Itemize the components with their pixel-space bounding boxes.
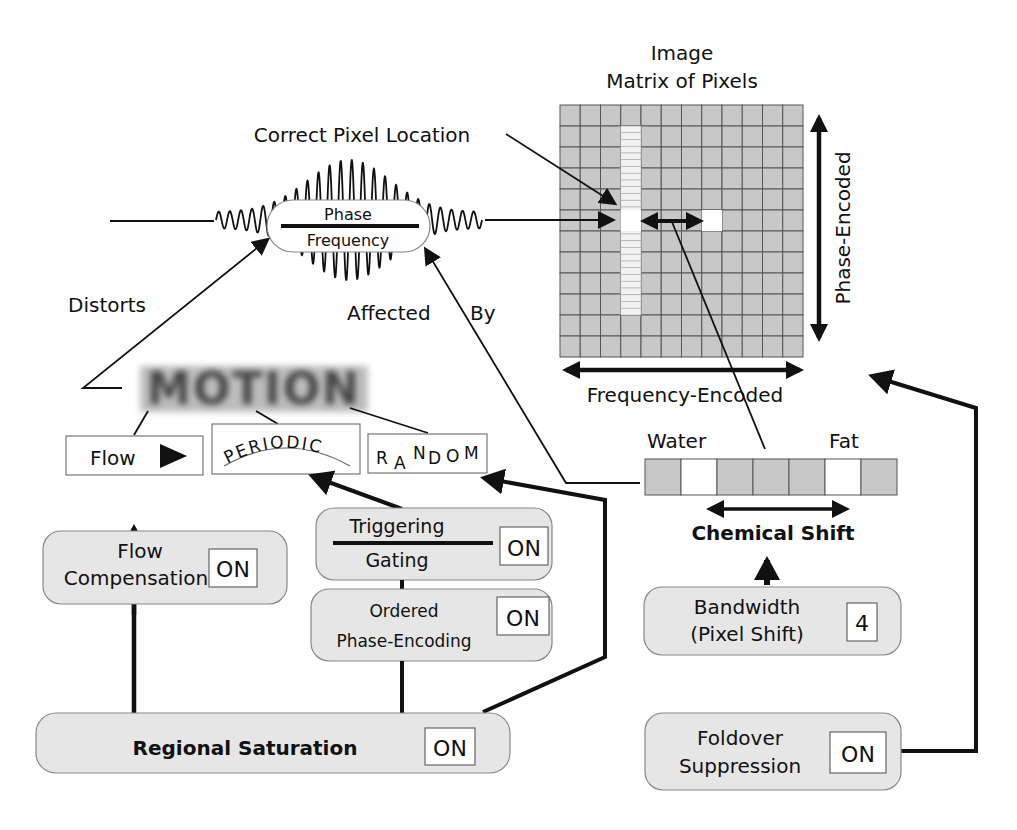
by-label: By (470, 301, 496, 325)
foldover-suppression-control[interactable]: Foldover Suppression ON (645, 713, 901, 790)
triggering-label: Triggering (349, 515, 445, 537)
matrix-title-line2: Matrix of Pixels (606, 69, 758, 93)
fat-label: Fat (829, 429, 859, 453)
motion-type-periodic: PERIODIC (212, 424, 360, 474)
regional-saturation-control[interactable]: Regional Saturation ON (36, 713, 510, 773)
ordered-toggle[interactable]: ON (506, 606, 540, 631)
phase-encoded-label: Phase-Encoded (831, 151, 855, 304)
frequency-label: Frequency (307, 231, 390, 250)
flow-compensation-control[interactable]: Flow Compensation ON (43, 531, 287, 604)
correct-pixel-location-label: Correct Pixel Location (254, 123, 471, 147)
motion-type-flow: Flow (66, 436, 203, 475)
gating-label: Gating (365, 549, 428, 571)
frequency-encoded-label: Frequency-Encoded (587, 383, 783, 407)
ordered-line1: Ordered (369, 601, 438, 621)
bandwidth-control[interactable]: Bandwidth (Pixel Shift) 4 (644, 587, 901, 655)
motion-type-random: RANDOM (368, 434, 487, 473)
matrix-title-line1: Image (651, 41, 714, 65)
triggering-gating-control[interactable]: Triggering Gating ON (316, 508, 552, 580)
pixel-grid (560, 105, 803, 357)
bandwidth-line2: (Pixel Shift) (690, 622, 804, 646)
mri-artifact-diagram: Image Matrix of Pixels Phase-Encoded Fre… (0, 0, 1017, 830)
motion-title: MOTION (140, 363, 368, 414)
flow-comp-line2: Compensation (64, 566, 208, 590)
flow-comp-toggle[interactable]: ON (216, 557, 250, 582)
image-matrix: Image Matrix of Pixels Phase-Encoded Fre… (560, 41, 855, 407)
signal-waveform: Phase Frequency (110, 160, 612, 280)
foldover-line2: Suppression (679, 754, 801, 778)
ordered-line2: Phase-Encoding (336, 631, 471, 651)
phase-label: Phase (324, 205, 372, 224)
distorts-label: Distorts (68, 293, 146, 317)
triggering-to-periodic-arrow (312, 476, 402, 509)
triggering-toggle[interactable]: ON (507, 536, 541, 561)
chemical-shift-label: Chemical Shift (691, 521, 855, 545)
water-label: Water (647, 429, 707, 453)
bandwidth-line1: Bandwidth (694, 595, 800, 619)
flow-label: Flow (90, 446, 136, 470)
chemical-shift-strip: Water Fat Chemical Shift (645, 429, 897, 545)
foldover-to-matrix-arrow (872, 376, 976, 751)
foldover-toggle[interactable]: ON (841, 742, 875, 767)
motion-word: MOTION (147, 363, 361, 414)
foldover-line1: Foldover (697, 726, 784, 750)
regional-saturation-label: Regional Saturation (133, 736, 358, 760)
flow-comp-line1: Flow (117, 539, 163, 563)
regional-saturation-toggle[interactable]: ON (433, 736, 467, 761)
affected-label: Affected (347, 301, 431, 325)
bandwidth-value[interactable]: 4 (855, 611, 869, 636)
ordered-phase-encoding-control[interactable]: Ordered Phase-Encoding ON (311, 589, 552, 661)
